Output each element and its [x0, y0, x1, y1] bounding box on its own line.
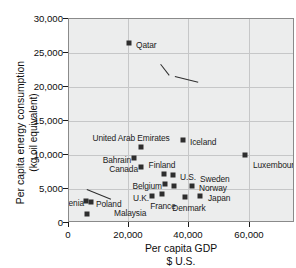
y-tick-label-5000: 5,000 — [39, 183, 63, 194]
x-tick-label-0: 0 — [65, 229, 70, 240]
gridline-y-25000 — [69, 53, 293, 54]
y-tick-mark-10000 — [63, 154, 68, 155]
point-label-canada: Canada — [109, 165, 138, 174]
y-tick-mark-15000 — [63, 120, 68, 121]
point-label-malaysia: Malaysia — [114, 209, 146, 218]
x-tick-mark-40000 — [188, 222, 189, 227]
data-point-norway — [190, 184, 195, 189]
y-axis-title-line1: Per capita energy consumption — [15, 48, 28, 218]
data-point-luxembourg — [243, 153, 248, 158]
data-point-japan — [198, 194, 203, 199]
data-point-uk — [150, 194, 155, 199]
x-axis-title-line1: Per capita GDP — [68, 243, 294, 256]
gridline-y-15000 — [69, 121, 293, 122]
data-point-qatar — [127, 41, 132, 46]
gridline-y-20000 — [69, 87, 293, 88]
point-label-us: U.S. — [180, 173, 196, 182]
point-label-norway: Norway — [199, 184, 227, 193]
x-tick-mark-0 — [68, 222, 69, 227]
gridline-x-60000 — [249, 19, 250, 221]
x-axis-title-line2: $ U.S. — [68, 256, 294, 268]
y-tick-mark-25000 — [63, 52, 68, 53]
data-point-united-arab-emirates — [139, 145, 144, 150]
x-tick-label-40000: 40,000 — [173, 229, 202, 240]
y-tick-mark-20000 — [63, 86, 68, 87]
data-point-us — [171, 173, 176, 178]
y-tick-mark-5000 — [63, 188, 68, 189]
data-point-sweden — [172, 184, 177, 189]
point-label-iceland: Iceland — [190, 138, 216, 147]
x-tick-mark-60000 — [249, 222, 250, 227]
point-label-qatar: Qatar — [136, 41, 156, 50]
x-tick-label-20000: 20,000 — [113, 229, 142, 240]
scatter-chart: Qatar United Arab Emirates Iceland Bahra… — [0, 0, 296, 268]
y-axis-title: Per capita energy consumption (kg oil eq… — [15, 48, 40, 218]
leader-line-finland — [160, 64, 169, 76]
y-tick-label-30000: 30,000 — [34, 13, 63, 24]
gridline-x-20000 — [128, 19, 129, 221]
point-label-uk: U.K. — [133, 194, 149, 203]
point-label-japan: Japan — [208, 194, 230, 203]
y-tick-mark-30000 — [63, 18, 68, 19]
point-label-luxembourg: Luxembourg — [253, 161, 294, 170]
leader-line-sweden-2 — [175, 76, 199, 83]
data-point-finland — [162, 172, 167, 177]
data-point-bahrain — [132, 156, 137, 161]
point-label-united-arab-emirates: United Arab Emirates — [92, 134, 169, 143]
data-point-denmark — [183, 195, 188, 200]
point-label-slovenia: Slovenia — [68, 199, 84, 208]
data-point-canada — [139, 165, 144, 170]
data-point-malaysia — [85, 212, 90, 217]
data-point-belgium — [163, 182, 168, 187]
data-point-france — [160, 192, 165, 197]
y-axis-title-line2: (kg oil equivalent) — [27, 48, 40, 218]
data-point-poland — [89, 200, 94, 205]
x-tick-label-60000: 60,000 — [234, 229, 263, 240]
y-tick-label-0: 0 — [58, 217, 63, 228]
x-axis-title: Per capita GDP $ U.S. — [68, 243, 294, 268]
plot-area: Qatar United Arab Emirates Iceland Bahra… — [68, 18, 294, 222]
gridline-y-5000 — [69, 189, 293, 190]
point-label-finland: Finland — [149, 161, 176, 170]
gridline-x-40000 — [188, 19, 189, 221]
x-tick-mark-20000 — [128, 222, 129, 227]
point-label-denmark: Denmark — [172, 204, 205, 213]
point-label-belgium: Belgium — [132, 182, 162, 191]
data-point-iceland — [181, 138, 186, 143]
